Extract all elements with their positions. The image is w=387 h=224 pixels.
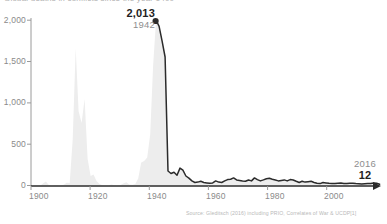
x-axis-label-1900: 1900 — [29, 192, 49, 201]
y-axis-label-1000: 1,000 — [0, 98, 26, 107]
area-fill-series — [31, 19, 380, 186]
x-axis-label-1980: 1980 — [265, 192, 285, 201]
x-axis-label-2000: 2000 — [324, 192, 344, 201]
end-year-label: 2016 — [345, 158, 385, 169]
x-axis-label-1940: 1940 — [147, 192, 167, 201]
y-axis-label-500: 500 — [0, 140, 26, 149]
x-axis-label-1920: 1920 — [88, 192, 108, 201]
y-axis-label-2000: 2,000 — [0, 16, 26, 25]
chart-figure: Global deaths in conflicts since the yea… — [0, 0, 387, 224]
peak-annotation: 2,013 1942 — [99, 7, 155, 30]
y-axis-label-1500: 1,500 — [0, 57, 26, 66]
source-credit: Source: Gleditsch (2016) including PRIO,… — [186, 210, 386, 217]
end-annotation: 2016 12 — [345, 158, 385, 181]
x-axis-label-1960: 1960 — [206, 192, 226, 201]
end-value-label: 12 — [345, 169, 385, 181]
peak-year-label: 1942 — [99, 19, 155, 30]
peak-value-label: 2,013 — [99, 7, 155, 19]
y-axis-label-0: 0 — [0, 181, 26, 190]
